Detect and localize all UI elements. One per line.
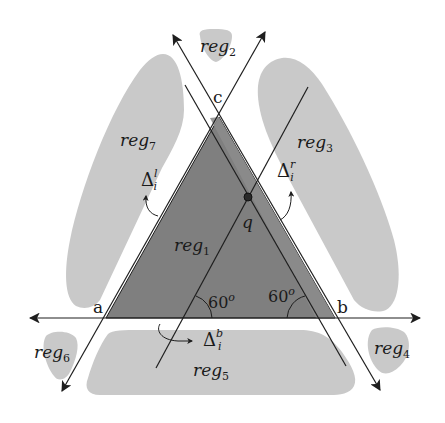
label-delta-bottom: Δbi	[203, 327, 223, 353]
diagram-canvas: a b c q reg1 reg2 reg3 reg4 reg5 reg6 re…	[0, 0, 445, 423]
point-label-q: q	[242, 212, 253, 232]
vertex-label-a: a	[93, 297, 103, 317]
point-q-marker	[244, 193, 252, 201]
label-delta-right: Δri	[277, 158, 296, 184]
delta-right-arrow	[280, 192, 291, 220]
delta-left-arrow	[146, 196, 158, 216]
label-delta-left: Δli	[141, 167, 158, 193]
vertex-label-b: b	[337, 297, 348, 317]
vertex-label-c: c	[213, 87, 223, 107]
